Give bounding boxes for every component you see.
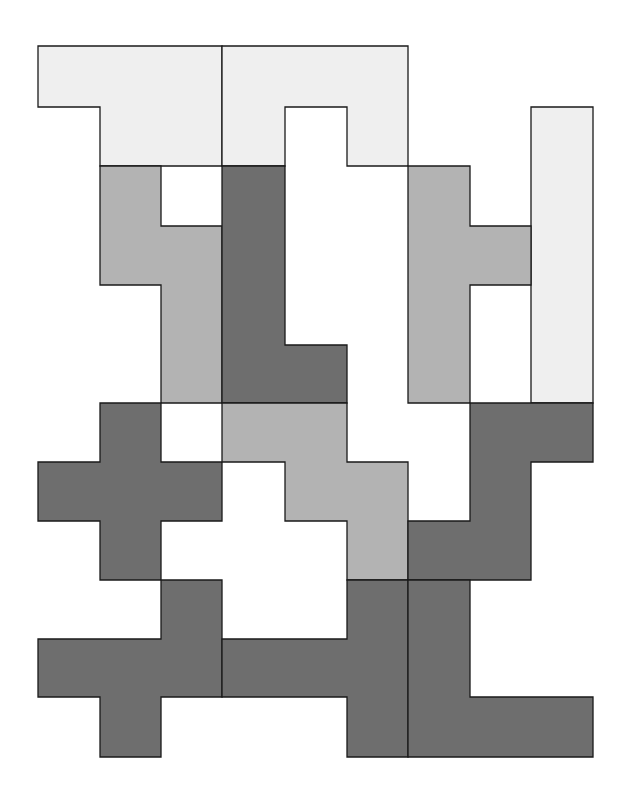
piece-p10 bbox=[38, 580, 222, 757]
piece-p1 bbox=[38, 46, 222, 166]
piece-p9 bbox=[408, 403, 593, 580]
piece-p2 bbox=[222, 46, 408, 166]
piece-p8 bbox=[222, 403, 408, 580]
piece-p4 bbox=[100, 166, 222, 403]
piece-p5 bbox=[222, 166, 347, 403]
piece-p12 bbox=[408, 580, 593, 757]
piece-p3 bbox=[531, 107, 593, 403]
piece-p6 bbox=[408, 166, 531, 403]
piece-p11 bbox=[222, 580, 408, 757]
piece-p7 bbox=[38, 403, 222, 580]
polyomino-board bbox=[0, 0, 626, 798]
